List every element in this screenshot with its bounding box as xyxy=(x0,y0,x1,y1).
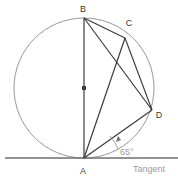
geometry-figure: B C D A 65° Tangent xyxy=(0,0,178,180)
vertex-label-c: C xyxy=(126,18,133,28)
vertex-label-d: D xyxy=(156,110,163,120)
angle-arrow-icon xyxy=(116,136,121,142)
angle-measure-label: 65° xyxy=(120,147,134,157)
angle-arc xyxy=(110,136,118,149)
vertex-label-b: B xyxy=(80,4,86,14)
tangent-label: Tangent xyxy=(133,164,166,174)
chord-bd xyxy=(84,18,152,110)
chord-cd xyxy=(125,38,152,110)
circle-center-dot xyxy=(82,86,86,90)
vertex-label-a: A xyxy=(80,166,86,176)
chord-ad xyxy=(84,110,152,158)
geometry-canvas: B C D A 65° Tangent xyxy=(0,0,178,180)
